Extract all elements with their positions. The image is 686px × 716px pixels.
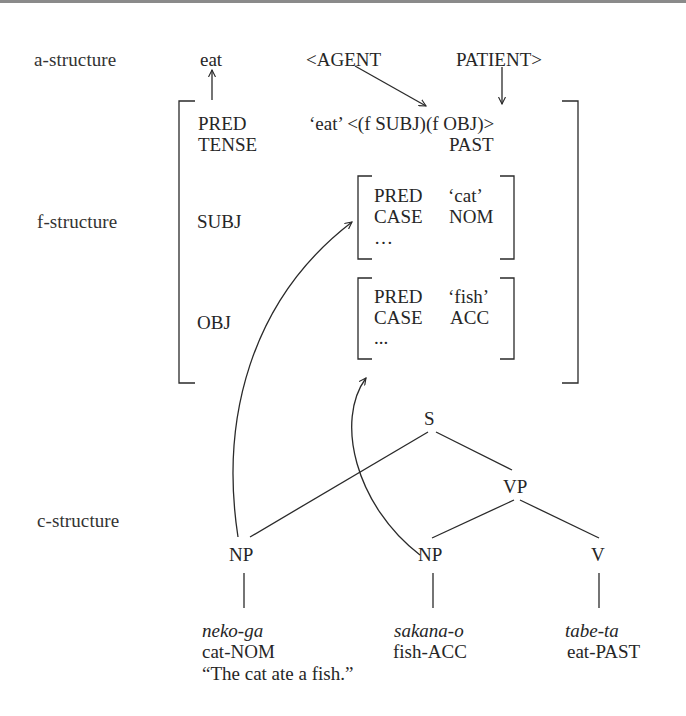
obj-ellipsis: ... [374,328,388,348]
word-gloss-2: fish-ACC [393,642,467,662]
subj-ellipsis: … [374,228,393,248]
node-s: S [424,409,435,429]
subj-right-bracket [500,176,514,259]
f-subj-attr: SUBJ [197,212,241,232]
a-structure-patient: PATIENT> [456,50,542,70]
f-tense-value: PAST [449,135,494,155]
agent-to-subj-arrow [355,66,426,106]
f-structure-label: f-structure [37,212,117,232]
edge-vp-v [520,500,599,538]
subj-pred-attr: PRED [374,186,423,206]
f-obj-attr: OBJ [197,313,231,333]
f-pred-value: ‘eat’ <(f SUBJ)(f OBJ)> [309,114,494,134]
obj-right-bracket [500,278,514,359]
word-form-1: neko-ga [202,621,263,641]
subj-case-value: NOM [449,207,493,227]
subj-pred-value: ‘cat’ [448,186,483,206]
subj-case-attr: CASE [374,207,423,227]
np1-to-subj-arrow [233,222,352,537]
a-structure-agent: <AGENT [306,50,381,70]
outer-left-bracket [179,101,195,383]
node-np-object: NP [418,545,442,565]
subj-left-bracket [358,176,372,259]
np2-to-obj-arrow [352,378,420,555]
c-structure-label: c-structure [37,511,119,531]
word-gloss-1: cat-NOM [202,642,275,662]
obj-pred-value: ‘fish’ [448,287,489,307]
diagram-lines [0,0,686,716]
obj-left-bracket [358,278,372,359]
word-form-3: tabe-ta [565,621,619,641]
node-np-subject: NP [229,545,253,565]
obj-case-attr: CASE [374,308,423,328]
translation: “The cat ate a fish.” [202,664,353,684]
node-vp: VP [503,477,527,497]
f-tense-attr: TENSE [198,135,257,155]
word-gloss-3: eat-PAST [567,642,640,662]
a-structure-predicate: eat [200,50,222,70]
edge-s-np1 [250,432,428,537]
outer-right-bracket [562,101,578,383]
node-v: V [591,545,605,565]
a-structure-label: a-structure [34,50,116,70]
obj-case-value: ACC [450,308,489,328]
obj-pred-attr: PRED [374,287,423,307]
f-pred-attr: PRED [198,114,247,134]
edge-vp-np2 [432,500,514,538]
edge-s-vp [436,432,512,470]
word-form-2: sakana-o [394,621,464,641]
